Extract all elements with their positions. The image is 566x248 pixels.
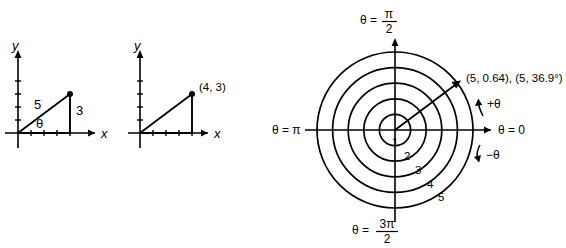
negative-theta-arrowhead (474, 155, 481, 163)
panel1-opposite-label: 3 (76, 103, 83, 118)
polar-point-label: (5, 0.64), (5, 36.9°) (466, 72, 563, 84)
negative-theta-direction-icon (474, 145, 481, 163)
panel1-x-axis-label: x (100, 126, 108, 141)
panel2-x-axis-arrowhead (201, 130, 208, 137)
polar-label-theta-half-pi-numerator: π (385, 7, 393, 21)
negative-theta-label: −θ (486, 148, 500, 162)
polar-label-theta-three-half-pi-prefix: θ = (352, 223, 369, 237)
polar-label-theta-zero: θ = 0 (498, 123, 525, 137)
panel1-hypotenuse-label: 5 (34, 97, 41, 112)
panel2-hypotenuse (140, 94, 192, 133)
polar-label-theta-pi: θ = π (272, 123, 301, 137)
polar-label-theta-half-pi: θ = π 2 (360, 7, 397, 36)
polar-ring-label-3: 3 (415, 164, 421, 176)
panel1-x-axis-arrowhead (88, 130, 95, 137)
polar-ring-label-4: 4 (427, 178, 434, 190)
panel3-polar-axes (305, 38, 491, 222)
polar-label-theta-three-half-pi-numerator: 3π (380, 217, 395, 231)
panel1-hypotenuse (18, 94, 70, 133)
polar-horizontal-axis-arrowhead (484, 127, 491, 134)
panel1-vertex-point (67, 91, 73, 97)
polar-label-theta-half-pi-denominator: 2 (386, 22, 393, 36)
polar-ring-label-2: 2 (404, 150, 410, 162)
polar-ring-label-1: 1 (392, 136, 398, 148)
positive-theta-direction-icon (475, 99, 483, 117)
panel2-triangle (140, 91, 195, 133)
panel1-triangle (18, 91, 73, 133)
polar-label-theta-three-half-pi-denominator: 2 (384, 232, 391, 246)
positive-theta-arrowhead (475, 99, 482, 107)
panel1-angle-label: θ (36, 116, 43, 131)
polar-ring-label-5: 5 (438, 191, 444, 203)
panel-right-triangle-with-angle: x y 5 3 θ x y (4, 3) (0, 0, 566, 248)
positive-theta-label: +θ (487, 97, 501, 111)
figure-root: x y 5 3 θ x y (4, 3) (0, 0, 566, 248)
polar-label-theta-three-half-pi: θ = 3π 2 (352, 217, 398, 246)
panel2-vertex-point (189, 91, 195, 97)
panel2-y-axis-label: y (133, 38, 142, 53)
panel1-y-axis-label: y (11, 38, 20, 53)
polar-vertical-axis-arrowhead (392, 38, 399, 46)
panel2-point-label: (4, 3) (199, 81, 226, 93)
panel3-point-ray (395, 81, 461, 131)
polar-label-theta-half-pi-prefix: θ = (360, 13, 377, 27)
panel2-x-axis-label: x (213, 126, 221, 141)
